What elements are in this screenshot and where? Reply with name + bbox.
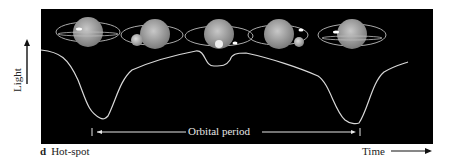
y-axis-label: Light bbox=[11, 68, 23, 92]
hot-spot-icon bbox=[299, 29, 304, 32]
moon-icon bbox=[215, 40, 223, 48]
hot-spot-icon bbox=[233, 42, 238, 45]
moon-icon bbox=[131, 34, 143, 46]
planet-phase-5 bbox=[318, 19, 386, 49]
caption-text: Hot-spot bbox=[51, 145, 90, 157]
light-axis-arrow-icon bbox=[24, 39, 30, 84]
planet-phase-4 bbox=[248, 19, 308, 49]
orbital-period-label: Orbital period bbox=[186, 125, 252, 137]
planet-phase-3 bbox=[185, 19, 253, 49]
panel-letter: d bbox=[40, 145, 46, 157]
time-axis-arrow-icon bbox=[391, 148, 432, 154]
moon-icon bbox=[294, 37, 304, 47]
light-curve bbox=[41, 50, 408, 124]
planet-phase-2 bbox=[121, 19, 183, 49]
hot-spot-icon bbox=[333, 31, 339, 34]
hot-spot-icon bbox=[76, 28, 82, 31]
figure-caption: dHot-spot bbox=[40, 145, 90, 157]
planet-phase-1 bbox=[56, 17, 120, 47]
x-axis-label: Time bbox=[362, 145, 385, 157]
